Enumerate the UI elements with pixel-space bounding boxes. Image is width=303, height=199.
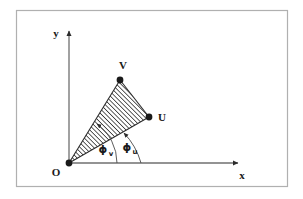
y-axis-label: y [53,27,59,39]
point-v-label: V [119,59,127,71]
angle-phi-u-subscript: u [133,148,138,156]
point-origin-dot [66,160,73,167]
angle-phi-v-symbol: ϕ [99,143,108,156]
point-v-dot [117,77,124,84]
angle-phi-v-subscript: v [109,150,114,158]
point-u-dot [146,114,153,121]
origin-label: O [52,166,61,178]
x-axis-label: x [239,169,245,181]
vector-angle-diagram: y x O U V ϕ v ϕ u [0,0,303,199]
figure-root: y x O U V ϕ v ϕ u [0,0,303,199]
angle-phi-u-symbol: ϕ [123,141,132,154]
point-u-label: U [158,111,166,123]
